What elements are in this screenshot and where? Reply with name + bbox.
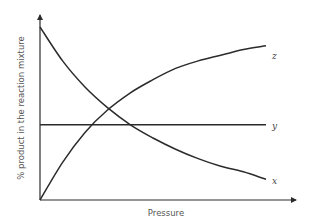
x-axis-title: Pressure	[148, 208, 184, 218]
y-axis-title: % product in the reaction mixture	[16, 36, 26, 180]
line-chart: z y x Pressure % product in the reaction…	[0, 0, 311, 223]
series-z-label: z	[271, 51, 277, 61]
series-y-label: y	[271, 121, 278, 131]
series-x-label: x	[272, 176, 277, 186]
series-z-line	[40, 46, 266, 200]
series-x-line	[40, 27, 266, 179]
